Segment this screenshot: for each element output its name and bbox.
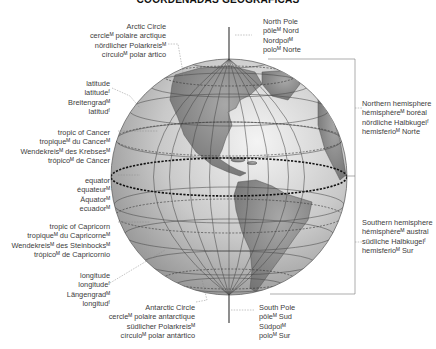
label-tropic-of-cancer: tropic of Cancer tropiqueᴹ du Cancerᴹ We… xyxy=(20,128,110,166)
label-latitude: latitude latitudeᶠ Breitengradᴹ latitudᶠ xyxy=(68,79,110,117)
label-arctic-circle: Arctic Circle cercleᴹ polaire arctique n… xyxy=(90,22,166,60)
label-longitude: longitude longitudeᶠ Längengradᴹ longitu… xyxy=(67,271,110,309)
label-north-pole: North Pole pôleᴹ Nord Nordpolᴹ poloᴹ Nor… xyxy=(263,17,301,55)
label-antarctic-circle: Antarctic Circle cercleᴹ polaire antarct… xyxy=(109,303,195,341)
globe-diagram xyxy=(0,0,436,349)
label-south-pole: South Pole pôleᴹ Sud Südpolᴹ poloᴹ Sur xyxy=(259,303,295,341)
label-tropic-of-capricorn: tropic of Capricorn tropiqueᴹ du Caprico… xyxy=(11,222,110,260)
label-southern-hemisphere: Southern hemisphere hémisphèreᴹ austral … xyxy=(362,218,433,256)
label-northern-hemisphere: Northern hemisphere hémisphèreᴹ boréal n… xyxy=(362,99,431,137)
label-equator: equator équateurᴹ Äquatorᴹ ecuadorᴹ xyxy=(77,176,110,214)
